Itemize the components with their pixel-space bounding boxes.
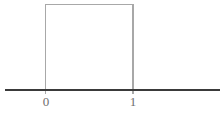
x-tick-label-1: 1 [130,95,137,108]
uniform-density-rectangle [45,5,134,95]
plot-canvas [0,0,223,115]
uniform-distribution-figure: 0 1 [0,0,223,115]
x-tick-label-0: 0 [43,95,50,108]
